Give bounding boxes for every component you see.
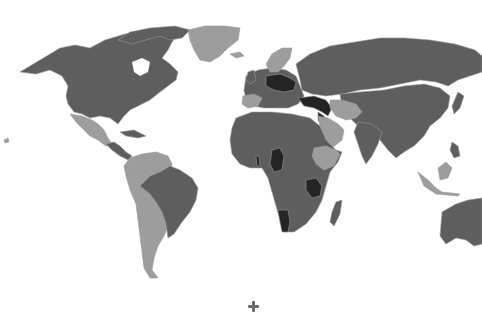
region-scandinavia[interactable] <box>266 48 292 72</box>
region-russia[interactable] <box>296 38 482 96</box>
region-madagascar[interactable] <box>330 200 342 226</box>
region-indonesia-borneo[interactable] <box>438 162 452 180</box>
region-asia[interactable] <box>340 84 450 158</box>
region-turkey-syria-iraq[interactable] <box>298 96 332 116</box>
region-mexico[interactable] <box>70 114 112 146</box>
region-cameroon-chad[interactable] <box>270 148 284 172</box>
region-north-america[interactable] <box>20 28 178 124</box>
region-philippines[interactable] <box>450 142 460 158</box>
region-pacific-islands[interactable] <box>4 138 9 143</box>
world-map[interactable] <box>0 0 482 320</box>
region-japan[interactable] <box>452 92 464 114</box>
region-central-america[interactable] <box>106 142 132 160</box>
region-west-africa[interactable] <box>256 156 260 166</box>
region-india[interactable] <box>354 122 382 164</box>
region-caribbean[interactable] <box>120 130 146 138</box>
region-namibia[interactable] <box>278 210 290 232</box>
region-australia[interactable] <box>440 198 482 246</box>
region-greenland[interactable] <box>188 26 240 62</box>
region-iceland[interactable] <box>230 52 244 58</box>
plus-icon-vertical <box>252 301 255 312</box>
plus-icon[interactable] <box>248 301 259 312</box>
